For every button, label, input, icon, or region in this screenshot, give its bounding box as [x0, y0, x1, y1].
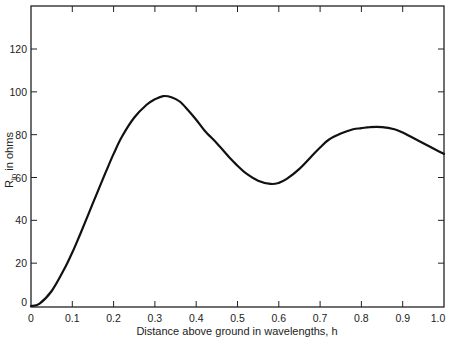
- plot-frame: [31, 6, 444, 307]
- x-tick-label: 0.3: [148, 312, 163, 324]
- x-tick-label: 0.4: [189, 312, 204, 324]
- y-axis-ticks: 020406080100120: [9, 43, 444, 308]
- x-tick-label: 0.5: [230, 312, 245, 324]
- x-tick-label: 0: [28, 312, 34, 324]
- y-tick-label: 80: [15, 129, 27, 141]
- x-tick-label: 0.1: [65, 312, 80, 324]
- x-tick-label: 0.8: [354, 312, 369, 324]
- x-tick-label: 0.9: [395, 312, 410, 324]
- y-tick-label: 0: [21, 296, 27, 308]
- y-tick-label: 120: [9, 43, 27, 55]
- line-chart: 00.10.20.30.40.50.60.70.80.91.0 02040608…: [0, 0, 450, 345]
- y-tick-label: 20: [15, 257, 27, 269]
- y-tick-label: 100: [9, 86, 27, 98]
- x-axis-label: Distance above ground in wavelengths, h: [136, 325, 337, 337]
- rin-curve: [31, 96, 444, 306]
- y-tick-label: 40: [15, 214, 27, 226]
- x-tick-label: 0.6: [271, 312, 286, 324]
- x-tick-label: 0.7: [313, 312, 328, 324]
- x-tick-label: 0.2: [106, 312, 121, 324]
- x-tick-label: 1.0: [431, 312, 446, 324]
